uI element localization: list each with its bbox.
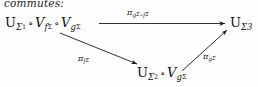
diagram-figure: commutes: UΣ1∘VfΣ∘VgΣ UΣ3 UΣ2∘VgΣ πgΣ∘fΣ… xyxy=(0,0,258,87)
compose-operator-3: ∘ xyxy=(158,68,167,79)
node-middle-V: V xyxy=(167,65,176,80)
node-source-V2-subsub: Σ xyxy=(76,23,81,31)
arrow-left-diagonal xyxy=(60,33,137,64)
node-middle-V-subsub: Σ xyxy=(182,73,187,81)
node-source: UΣ1∘VfΣ∘VgΣ xyxy=(5,16,81,31)
arrow-right-diagonal xyxy=(182,30,227,71)
arrow-label-top-f-sub: Σ xyxy=(145,11,149,17)
node-source-U: U xyxy=(5,15,16,30)
node-target-U-sub: Σ3 xyxy=(241,22,252,32)
node-target: UΣ3 xyxy=(230,16,252,31)
compose-operator-1: ∘ xyxy=(26,18,35,29)
arrow-label-left-f-sub: Σ xyxy=(86,57,90,63)
compose-operator-2: ∘ xyxy=(52,18,61,29)
node-middle-U: U xyxy=(137,65,148,80)
arrow-label-left-diagonal: πfΣ xyxy=(78,55,89,64)
node-target-U: U xyxy=(230,15,241,30)
node-source-V1: V xyxy=(35,15,44,30)
arrow-label-top: πgΣ∘fΣ xyxy=(127,9,149,18)
arrow-label-right-diagonal: πgΣ xyxy=(203,53,216,62)
arrow-label-right-g-sub: Σ xyxy=(212,55,216,61)
node-middle: UΣ2∘VgΣ xyxy=(137,66,186,81)
